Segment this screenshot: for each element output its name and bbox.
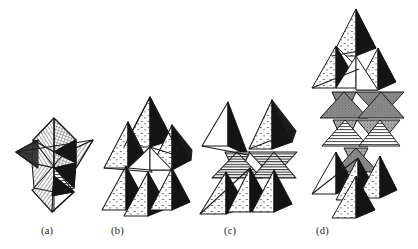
figure-illustration [0,0,418,249]
figure-panel: (a) (b) (c) (d) [0,0,418,249]
caption-label-b: (b) [111,225,124,236]
caption-label-a: (a) [41,225,53,236]
caption-label-d: (d) [316,225,329,236]
caption-label-c: (c) [224,225,236,236]
